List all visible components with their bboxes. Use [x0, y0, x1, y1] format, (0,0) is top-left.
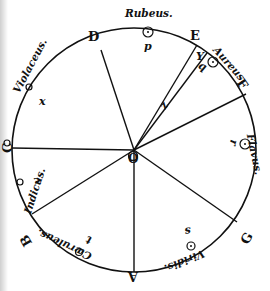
point-label-A: A [127, 269, 139, 284]
color-label-viridis: Viridis. [163, 248, 207, 275]
color-circle-diagram: O D E Y F G A B C Rubeus. Aureus. Flavus… [0, 0, 270, 291]
color-label-flavus: Flavus. [244, 132, 265, 176]
color-label-aureus: Aureus. [210, 43, 250, 85]
color-label-rubeus: Rubeus. [124, 7, 173, 19]
centroid-label-x: x [38, 95, 46, 108]
centroid-label-p: p [144, 40, 152, 53]
color-label-indicus: Indicus. [21, 166, 47, 216]
point-label-B: B [17, 232, 35, 249]
centroid-label-t: t [84, 233, 93, 247]
point-label-G: G [237, 230, 256, 247]
radius-OG [134, 150, 237, 222]
centroid-marker-v [17, 179, 23, 185]
centroid-label-s: s [184, 224, 192, 238]
point-label-D: D [88, 29, 99, 44]
radius-OC [12, 148, 134, 150]
point-label-E: E [190, 28, 200, 43]
point-label-C: C [0, 143, 15, 153]
radius-OB [32, 150, 134, 214]
radius-OD [101, 50, 134, 150]
radius-OY [134, 53, 207, 150]
centroid-marker-s [187, 242, 195, 250]
centroid-label-r: r [227, 139, 241, 148]
